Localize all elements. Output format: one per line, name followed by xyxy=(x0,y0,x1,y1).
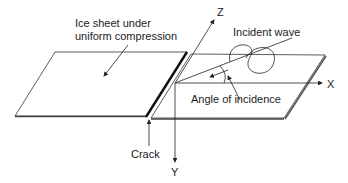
label-incident-wave: Incident wave xyxy=(233,26,300,38)
label-ice-sheet-2: uniform compression xyxy=(75,30,177,42)
ice-sheet-pointer xyxy=(104,45,128,76)
crack-edge xyxy=(146,52,187,117)
coordinate-axes xyxy=(175,20,322,162)
label-axis-y: Y xyxy=(171,166,179,178)
z-axis xyxy=(175,20,214,83)
label-axis-x: X xyxy=(327,78,335,90)
label-crack: Crack xyxy=(131,148,160,160)
label-axis-z: Z xyxy=(217,6,224,18)
left-ice-plate xyxy=(15,52,187,117)
label-ice-sheet-1: Ice sheet under xyxy=(75,17,151,29)
ice-sheet-diagram: Ice sheet under uniform compression Inci… xyxy=(0,0,348,183)
label-angle-of-incidence: Angle of incidence xyxy=(191,93,281,105)
right-ice-plate xyxy=(151,54,326,119)
incident-wave xyxy=(175,38,292,83)
